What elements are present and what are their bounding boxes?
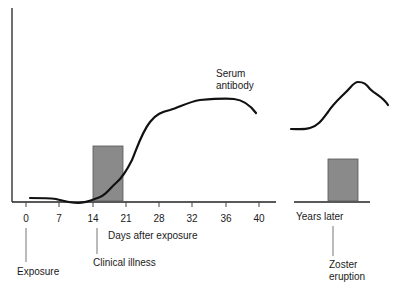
- x-axis-ticks: [26, 202, 259, 207]
- tick-label-28: 28: [153, 213, 164, 224]
- tick-label-21: 21: [120, 213, 131, 224]
- tick-label-14: 14: [87, 213, 98, 224]
- tick-label-40: 40: [253, 213, 264, 224]
- exposure-label: Exposure: [17, 266, 59, 277]
- years-later-label: Years later: [296, 211, 343, 222]
- clinical-illness-label: Clinical illness: [93, 257, 156, 268]
- reactivation-antibody-curve: [291, 82, 388, 129]
- tick-label-0: 0: [23, 213, 29, 224]
- zoster-label-line1: Zoster: [329, 259, 357, 270]
- x-axis-title: Days after exposure: [108, 230, 198, 241]
- tick-label-36: 36: [220, 213, 231, 224]
- serum-antibody-label-line1: Serum: [216, 68, 245, 79]
- diagram-canvas: [0, 0, 400, 293]
- serum-antibody-curve: [30, 99, 256, 203]
- serum-antibody-label-line2: antibody: [216, 80, 254, 91]
- zoster-label-line2: eruption: [329, 271, 365, 282]
- tick-label-7: 7: [56, 213, 62, 224]
- clinical-illness-period-box: [93, 146, 123, 201]
- tick-label-32: 32: [186, 213, 197, 224]
- zoster-eruption-period-box: [328, 159, 358, 201]
